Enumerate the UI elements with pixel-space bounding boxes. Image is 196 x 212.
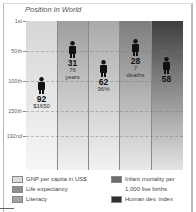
legend-label-infant-mortality: Infant mortality per (125, 175, 175, 183)
y-tick-mark (23, 111, 26, 112)
legend-label-literacy: Literacy (26, 195, 47, 203)
legend-label-human-dev-index: Human dev. index (125, 195, 173, 203)
gridline-192nd (26, 136, 183, 137)
frame-bottom-rule (0, 208, 14, 209)
y-tick-label: 100th (2, 78, 22, 84)
person-icon (37, 77, 46, 94)
y-tick-mark (23, 21, 26, 22)
y-tick-label: 1st (2, 18, 22, 24)
rank-value: 62 (88, 78, 119, 86)
detail-unit: deaths (120, 72, 151, 79)
y-tick-label: 150th (2, 108, 22, 114)
legend-label-infant-mortality-line2: 1,000 live births (125, 185, 167, 193)
marker-literacy: 62 96% (88, 60, 119, 93)
marker-life-expectancy: 31 76 years (57, 41, 88, 80)
legend-swatch-gnp (12, 176, 23, 183)
chart-title: Position in World (25, 5, 81, 14)
gridline-150th (26, 111, 183, 112)
legend-swatch-human-dev-index (111, 196, 122, 203)
column-literacy (89, 21, 120, 170)
person-icon (162, 57, 171, 74)
gridline-50th (26, 51, 183, 52)
legend-label-gnp: GNP per capita in US$ (26, 175, 87, 183)
marker-human-dev-index: 58 (151, 57, 182, 83)
legend-label-life-expectancy: Life expectancy (26, 185, 68, 193)
rank-value: 28 (120, 57, 151, 65)
legend-swatch-literacy (12, 196, 23, 203)
detail-value: 96% (88, 86, 119, 93)
column-human-dev-index (152, 21, 183, 170)
rank-value: 58 (151, 75, 182, 83)
person-icon (68, 41, 77, 58)
y-tick-mark (23, 51, 26, 52)
y-tick-label: 192nd (2, 133, 22, 139)
marker-infant-mortality: 28 7 deaths (120, 39, 151, 78)
marker-gnp: 92 $1650 (26, 77, 57, 110)
person-icon (99, 60, 108, 77)
legend-swatch-infant-mortality (111, 176, 122, 183)
person-icon (131, 39, 140, 56)
y-tick-label: 50th (2, 48, 22, 54)
legend-swatch-life-expectancy (12, 186, 23, 193)
rank-value: 31 (57, 59, 88, 67)
rank-value: 92 (26, 95, 57, 103)
detail-value: $1650 (26, 103, 57, 110)
detail-unit: years (57, 74, 88, 81)
y-tick-mark (23, 136, 26, 137)
